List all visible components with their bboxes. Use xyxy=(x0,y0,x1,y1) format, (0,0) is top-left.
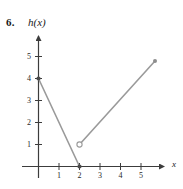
y-tick-label-4: 4 xyxy=(23,74,35,83)
graph-plot xyxy=(0,0,183,189)
closed-point-2-0 xyxy=(77,164,81,168)
y-tick-label-5: 5 xyxy=(23,52,35,61)
figure-container: 6. h(x) xyxy=(0,0,183,189)
x-tick-label-3: 3 xyxy=(94,171,106,180)
x-axis-label: x xyxy=(172,159,176,169)
closed-point-0-4 xyxy=(36,76,40,80)
x-tick-label-1: 1 xyxy=(53,171,65,180)
line-segment-right-branch xyxy=(80,61,156,145)
line-segment-left-branch xyxy=(39,79,80,167)
x-tick-label-5: 5 xyxy=(135,171,147,180)
y-tick-label-3: 3 xyxy=(23,96,35,105)
open-point-2-1 xyxy=(77,142,82,147)
y-tick-label-2: 2 xyxy=(23,118,35,127)
y-tick-label-1: 1 xyxy=(23,140,35,149)
x-tick-label-2: 2 xyxy=(74,171,86,180)
closed-point-right-end xyxy=(153,59,157,63)
x-tick-label-4: 4 xyxy=(115,171,127,180)
